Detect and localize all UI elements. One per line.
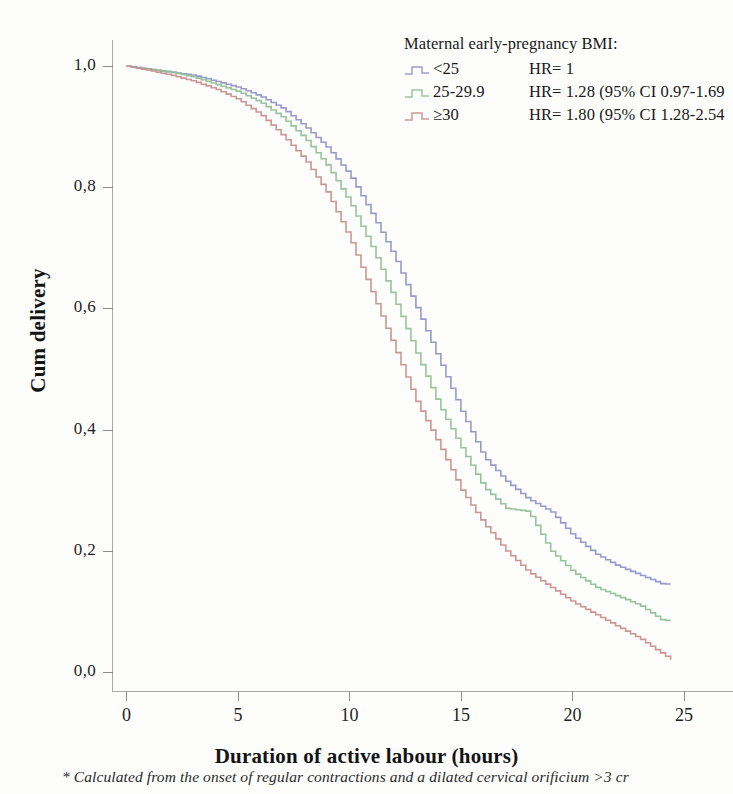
- legend-step-marker-icon: [404, 109, 430, 123]
- x-tick-mark: [349, 691, 350, 701]
- legend-label: 25-29.9: [433, 82, 529, 102]
- curve-series-1: [126, 66, 670, 584]
- y-tick-label: 1,0: [38, 55, 96, 75]
- legend-step-marker-icon: [404, 86, 430, 100]
- y-tick-mark: [103, 672, 113, 673]
- legend-hazard-ratio: HR= 1.80 (95% CI 1.28-2.54: [529, 105, 725, 125]
- y-tick-mark: [103, 66, 113, 67]
- km-survival-chart: 0,00,20,40,60,81,0 0510152025 Cum delive…: [0, 0, 733, 794]
- x-axis-line: [112, 691, 733, 692]
- legend-item-3: ≥30HR= 1.80 (95% CI 1.28-2.54: [404, 103, 733, 126]
- x-tick-label: 25: [664, 705, 704, 726]
- legend-item-1: <25HR= 1: [404, 57, 733, 80]
- y-tick-label: 0,0: [38, 661, 96, 681]
- footnote: * Calculated from the onset of regular c…: [62, 768, 733, 786]
- x-tick-mark: [572, 691, 573, 701]
- legend-rows: <25HR= 125-29.9HR= 1.28 (95% CI 0.97-1.6…: [404, 57, 733, 126]
- x-tick-label: 5: [218, 705, 258, 726]
- x-tick-mark: [684, 691, 685, 701]
- x-tick-mark: [126, 691, 127, 701]
- legend-item-2: 25-29.9HR= 1.28 (95% CI 0.97-1.69: [404, 80, 733, 103]
- y-tick-mark: [103, 430, 113, 431]
- chart-legend: Maternal early-pregnancy BMI: <25HR= 125…: [404, 34, 733, 126]
- legend-hazard-ratio: HR= 1: [529, 59, 574, 79]
- x-axis-title: Duration of active labour (hours): [0, 744, 733, 769]
- y-tick-mark: [103, 308, 113, 309]
- curve-series-2: [126, 66, 670, 620]
- y-tick-mark: [103, 187, 113, 188]
- legend-step-marker-icon: [404, 63, 430, 77]
- x-tick-mark: [238, 691, 239, 701]
- legend-hazard-ratio: HR= 1.28 (95% CI 0.97-1.69: [529, 82, 725, 102]
- y-axis-title: Cum delivery: [26, 231, 51, 431]
- x-tick-label: 0: [106, 705, 146, 726]
- legend-label: ≥30: [433, 105, 529, 125]
- curve-series-3: [126, 66, 670, 660]
- x-tick-label: 20: [552, 705, 592, 726]
- plot-area: [113, 42, 733, 690]
- legend-title: Maternal early-pregnancy BMI:: [404, 34, 733, 54]
- y-tick-label: 0,8: [38, 176, 96, 196]
- x-tick-mark: [461, 691, 462, 701]
- survival-curves: [113, 42, 733, 690]
- y-tick-mark: [103, 551, 113, 552]
- x-tick-label: 10: [329, 705, 369, 726]
- y-tick-label: 0,2: [38, 540, 96, 560]
- legend-label: <25: [433, 59, 529, 79]
- x-tick-label: 15: [441, 705, 481, 726]
